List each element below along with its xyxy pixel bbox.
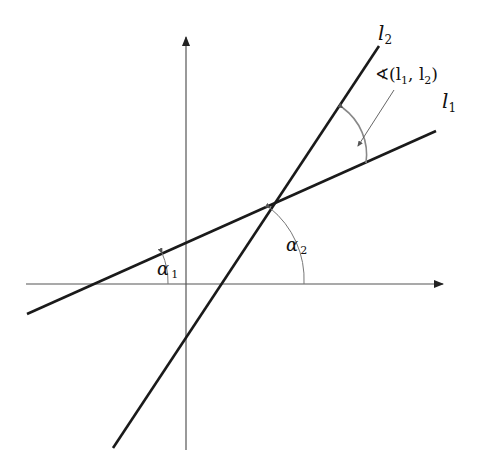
label-l1: l1 (442, 89, 456, 115)
label-angle-between: ∢(l1, l2) (375, 64, 438, 87)
label-alpha1: α1 (157, 258, 178, 281)
diagram-canvas: l2 l1 ∢(l1, l2) α1 α2 (0, 0, 490, 473)
label-l2: l2 (378, 21, 392, 47)
label-alpha2: α2 (286, 234, 307, 257)
angle-between-arc (343, 108, 367, 163)
angle-between-pointer (358, 90, 394, 146)
line-l2 (113, 46, 379, 448)
line-l1 (27, 131, 436, 314)
